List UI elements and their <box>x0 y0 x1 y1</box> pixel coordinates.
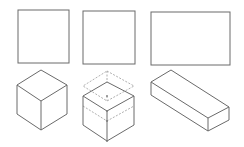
rectangle-face <box>151 12 230 65</box>
cube-isometric <box>17 70 67 130</box>
square-face-1 <box>18 10 69 63</box>
cube-exploded-layers <box>83 71 134 142</box>
rectangular-prism <box>151 70 229 131</box>
square-face-2 <box>83 11 135 64</box>
projection-diagram <box>0 0 244 147</box>
